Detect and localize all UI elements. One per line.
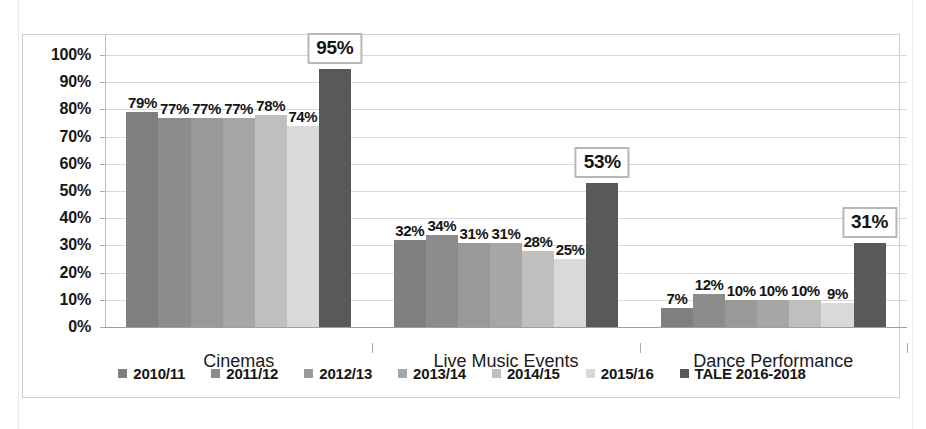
bar-slot: 78% — [255, 55, 287, 327]
legend-swatch-icon — [118, 369, 127, 378]
bar-value-label-highlighted: 31% — [842, 207, 897, 238]
y-axis-tick-label: 20% — [60, 264, 91, 282]
bar-slot: 32% — [394, 55, 426, 327]
legend-swatch-icon — [680, 369, 689, 378]
bar-slot: 10% — [757, 55, 789, 327]
bar-slot: 79% — [126, 55, 158, 327]
bar[interactable]: 10% — [757, 300, 789, 327]
bar-slot: 77% — [158, 55, 190, 327]
legend-item-2013-14[interactable]: 2013/14 — [398, 365, 466, 382]
bar-slot: 77% — [223, 55, 255, 327]
bar[interactable]: 31% — [854, 243, 886, 327]
bar-value-label: 10% — [759, 282, 788, 299]
bar-slot: 31% — [490, 55, 522, 327]
legend-label: 2013/14 — [413, 365, 466, 382]
legend-swatch-icon — [492, 369, 501, 378]
plot-area: 79%77%77%77%78%74%95%Cinemas32%34%31%31%… — [105, 55, 907, 327]
legend-label: TALE 2016-2018 — [695, 365, 806, 382]
legend-item-2014-15[interactable]: 2014/15 — [492, 365, 560, 382]
bar-slot: 12% — [693, 55, 725, 327]
bar-value-label: 77% — [224, 100, 253, 117]
bar-group-dance-performance: 7%12%10%10%10%9%31%Dance Performance — [640, 55, 907, 327]
y-axis-tick-label: 60% — [60, 155, 91, 173]
bar[interactable]: 7% — [661, 308, 693, 327]
legend-label: 2012/13 — [319, 365, 372, 382]
legend-item-tale-2016-2018[interactable]: TALE 2016-2018 — [680, 365, 806, 382]
bar-cluster: 79%77%77%77%78%74%95% — [126, 55, 351, 327]
y-axis-tick-label: 10% — [60, 291, 91, 309]
bar-value-label: 32% — [395, 222, 424, 239]
bar-value-label: 77% — [160, 100, 189, 117]
bar[interactable]: 25% — [554, 259, 586, 327]
bar-value-label-highlighted: 53% — [575, 147, 630, 178]
bar-cluster: 32%34%31%31%28%25%53% — [394, 55, 619, 327]
y-axis-tick-label: 70% — [60, 128, 91, 146]
bar-value-label: 79% — [128, 94, 157, 111]
bar[interactable]: 77% — [223, 118, 255, 327]
bar-slot: 53% — [586, 55, 618, 327]
bar[interactable]: 77% — [191, 118, 223, 327]
bar-slot: 25% — [554, 55, 586, 327]
y-axis-tick-label: 90% — [60, 73, 91, 91]
bar[interactable]: 79% — [126, 112, 158, 327]
bar[interactable]: 9% — [821, 303, 853, 327]
bar-group-cinemas: 79%77%77%77%78%74%95%Cinemas — [105, 55, 372, 327]
y-axis-tick-label: 80% — [60, 100, 91, 118]
chart-legend: 2010/112011/122012/132013/142014/152015/… — [23, 365, 901, 382]
y-axis-tick-label: 50% — [60, 182, 91, 200]
bar[interactable]: 74% — [287, 126, 319, 327]
y-axis-labels: 100%90%80%70%60%50%40%30%20%10%0% — [23, 55, 99, 328]
bar-slot: 10% — [725, 55, 757, 327]
gridline — [105, 327, 907, 328]
y-axis-tick-label: 30% — [60, 236, 91, 254]
bar-value-label: 9% — [827, 285, 848, 302]
bar-slot: 10% — [789, 55, 821, 327]
bar[interactable]: 31% — [458, 243, 490, 327]
bar-value-label: 74% — [288, 108, 317, 125]
legend-item-2015-16[interactable]: 2015/16 — [586, 365, 654, 382]
bar-value-label: 77% — [192, 100, 221, 117]
bar-value-label: 25% — [556, 241, 585, 258]
legend-swatch-icon — [586, 369, 595, 378]
bar-value-label: 31% — [459, 225, 488, 242]
category-separator-tick — [640, 343, 641, 353]
bar-slot: 31% — [458, 55, 490, 327]
bar-value-label-highlighted: 95% — [307, 33, 362, 64]
bar-cluster: 7%12%10%10%10%9%31% — [661, 55, 886, 327]
legend-swatch-icon — [304, 369, 313, 378]
y-axis-tick-label: 40% — [60, 209, 91, 227]
bar-group-live-music-events: 32%34%31%31%28%25%53%Live Music Events — [372, 55, 639, 327]
bar[interactable]: 28% — [522, 251, 554, 327]
bar[interactable]: 10% — [789, 300, 821, 327]
legend-swatch-icon — [398, 369, 407, 378]
bar[interactable]: 53% — [586, 183, 618, 327]
legend-swatch-icon — [211, 369, 220, 378]
y-axis-tick — [100, 327, 105, 328]
legend-item-2011-12[interactable]: 2011/12 — [211, 365, 278, 382]
legend-label: 2010/11 — [133, 365, 185, 382]
legend-item-2010-11[interactable]: 2010/11 — [118, 365, 185, 382]
bar[interactable]: 32% — [394, 240, 426, 327]
page-margin-line-right — [912, 0, 913, 429]
bar[interactable]: 10% — [725, 300, 757, 327]
chart-container: 100%90%80%70%60%50%40%30%20%10%0% 79%77%… — [22, 34, 900, 398]
bar-slot: 74% — [287, 55, 319, 327]
bar[interactable]: 95% — [319, 69, 351, 327]
legend-item-2012-13[interactable]: 2012/13 — [304, 365, 372, 382]
bar-slot: 7% — [661, 55, 693, 327]
page-margin-line-left — [18, 0, 19, 429]
bar-value-label: 28% — [524, 233, 553, 250]
bar[interactable]: 78% — [255, 115, 287, 327]
bar-value-label: 34% — [427, 217, 456, 234]
x-axis-end-tick — [907, 343, 908, 353]
bar-value-label: 31% — [492, 225, 521, 242]
bar-value-label: 7% — [667, 290, 688, 307]
bar[interactable]: 12% — [693, 294, 725, 327]
bar-slot: 34% — [426, 55, 458, 327]
legend-label: 2011/12 — [226, 365, 278, 382]
category-separator-tick — [372, 343, 373, 353]
y-axis-tick-label: 100% — [51, 46, 91, 64]
bar[interactable]: 34% — [426, 235, 458, 327]
bar[interactable]: 77% — [158, 118, 190, 327]
bar[interactable]: 31% — [490, 243, 522, 327]
